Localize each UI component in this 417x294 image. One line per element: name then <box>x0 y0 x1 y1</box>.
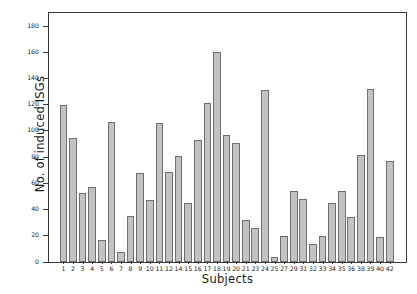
bar <box>60 105 68 262</box>
x-tick-mark <box>102 262 103 264</box>
x-tick-label: 33 <box>319 265 327 272</box>
x-tick-label: 21 <box>242 265 250 272</box>
x-tick-mark <box>111 262 112 264</box>
x-tick-mark <box>169 262 170 264</box>
bar <box>69 138 77 263</box>
bar <box>165 172 173 262</box>
bar <box>213 52 221 262</box>
x-tick-label: 11 <box>155 265 163 272</box>
x-tick-mark <box>179 262 180 264</box>
bar <box>108 122 116 262</box>
bar <box>88 187 96 262</box>
x-tick-mark <box>236 262 237 264</box>
y-tick-label: 160 <box>0 48 39 55</box>
x-tick-label: 40 <box>376 265 384 272</box>
x-tick-label: 3 <box>81 265 85 272</box>
bar <box>299 199 307 262</box>
y-tick-mark <box>43 52 48 53</box>
bar <box>204 103 212 262</box>
y-tick-mark <box>43 157 48 158</box>
bar <box>386 161 394 262</box>
x-tick-mark <box>313 262 314 264</box>
x-tick-mark <box>361 262 362 264</box>
y-tick-label: 180 <box>0 22 39 29</box>
bar <box>127 216 135 262</box>
bar <box>117 252 125 262</box>
x-tick-label: 15 <box>184 265 192 272</box>
x-tick-mark <box>227 262 228 264</box>
y-tick-label: 20 <box>0 231 39 238</box>
bar <box>319 236 327 262</box>
x-tick-mark <box>284 262 285 264</box>
x-tick-mark <box>255 262 256 264</box>
x-tick-mark <box>246 262 247 264</box>
x-tick-mark <box>63 262 64 264</box>
x-tick-mark <box>121 262 122 264</box>
y-tick-label: 0 <box>0 258 39 265</box>
x-tick-label: 4 <box>90 265 94 272</box>
bar <box>232 143 240 262</box>
x-tick-mark <box>370 262 371 264</box>
x-tick-mark <box>131 262 132 264</box>
x-tick-mark <box>265 262 266 264</box>
x-tick-mark <box>92 262 93 264</box>
y-tick-mark <box>43 262 48 263</box>
x-tick-label: 17 <box>203 265 211 272</box>
x-tick-mark <box>83 262 84 264</box>
x-tick-label: 27 <box>280 265 288 272</box>
x-tick-label: 34 <box>328 265 336 272</box>
x-tick-label: 24 <box>261 265 269 272</box>
x-tick-label: 9 <box>138 265 142 272</box>
y-tick-mark <box>43 130 48 131</box>
x-tick-mark <box>303 262 304 264</box>
y-tick-label: 120 <box>0 100 39 107</box>
bar <box>376 237 384 262</box>
x-tick-mark <box>342 262 343 264</box>
x-tick-label: 6 <box>109 265 113 272</box>
bar <box>347 217 355 262</box>
y-tick-mark <box>43 26 48 27</box>
x-tick-label: 1 <box>61 265 65 272</box>
bar <box>280 236 288 262</box>
x-tick-label: 7 <box>119 265 123 272</box>
x-tick-label: 2 <box>71 265 75 272</box>
x-tick-label: 16 <box>194 265 202 272</box>
x-tick-label: 38 <box>357 265 365 272</box>
x-tick-label: 23 <box>251 265 259 272</box>
bar <box>338 191 346 262</box>
x-axis-title: Subjects <box>48 272 407 286</box>
y-tick-label: 40 <box>0 205 39 212</box>
x-tick-label: 39 <box>367 265 375 272</box>
x-tick-mark <box>323 262 324 264</box>
x-tick-mark <box>380 262 381 264</box>
bar <box>175 156 183 262</box>
x-tick-label: 32 <box>309 265 317 272</box>
x-tick-mark <box>217 262 218 264</box>
y-tick-label: 140 <box>0 74 39 81</box>
x-tick-label: 5 <box>100 265 104 272</box>
x-tick-label: 31 <box>299 265 307 272</box>
bar <box>357 155 365 262</box>
x-tick-mark <box>207 262 208 264</box>
x-tick-label: 19 <box>223 265 231 272</box>
y-tick-label: 60 <box>0 179 39 186</box>
y-tick-mark <box>43 235 48 236</box>
bar <box>156 123 164 262</box>
x-tick-mark <box>294 262 295 264</box>
bar <box>223 135 231 262</box>
y-tick-mark <box>43 209 48 210</box>
bar <box>242 220 250 262</box>
x-tick-mark <box>390 262 391 264</box>
x-tick-label: 14 <box>175 265 183 272</box>
bar <box>328 203 336 262</box>
x-tick-label: 8 <box>129 265 133 272</box>
bar <box>194 140 202 262</box>
x-tick-label: 10 <box>146 265 154 272</box>
x-tick-label: 35 <box>338 265 346 272</box>
bar <box>251 228 259 262</box>
y-tick-mark <box>43 78 48 79</box>
bar <box>290 191 298 262</box>
x-tick-label: 29 <box>290 265 298 272</box>
x-tick-mark <box>73 262 74 264</box>
x-tick-label: 36 <box>347 265 355 272</box>
